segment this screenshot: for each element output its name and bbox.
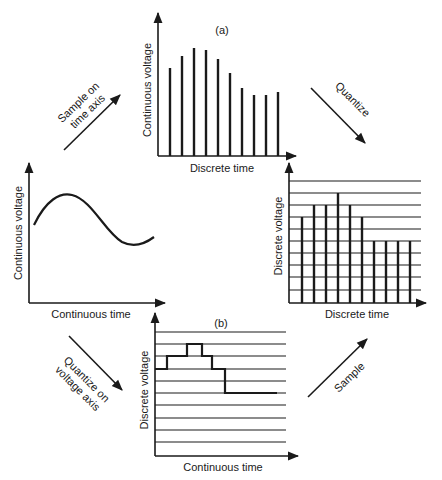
y-axis-label: Discrete voltage xyxy=(272,197,284,276)
analog-waveform xyxy=(34,194,154,244)
sampling-quantization-diagram: (a) Continuous voltage Discrete time Con… xyxy=(0,0,442,480)
y-axis-label: Continuous voltage xyxy=(12,186,24,280)
panel-tag-a: (a) xyxy=(215,24,228,36)
quantized-sample-bars xyxy=(302,193,410,303)
arrow-label: Sample xyxy=(332,360,367,395)
sample-bars xyxy=(170,48,278,156)
x-axis-label: Continuous time xyxy=(51,308,131,320)
arrow-quantize: Quantize xyxy=(311,79,373,143)
panel-quantized-sampled: Discrete voltage Discrete time xyxy=(272,163,426,320)
y-axis-label: Discrete voltage xyxy=(138,351,150,430)
arrow-sample-on-time-axis: Sample on time axis xyxy=(55,80,120,150)
arrow-sample: Sample xyxy=(308,339,367,397)
panel-tag-b: (b) xyxy=(214,317,227,329)
quantization-levels xyxy=(155,332,286,442)
x-axis-label: Discrete time xyxy=(325,308,389,320)
quantization-levels xyxy=(289,181,421,290)
panel-continuous-signal: Continuous voltage Continuous time xyxy=(12,163,165,320)
x-axis-label: Continuous time xyxy=(183,461,263,473)
y-axis-label: Continuous voltage xyxy=(141,43,153,137)
x-axis-label: Discrete time xyxy=(190,162,254,174)
arrow-quantize-on-voltage-axis: Quantize on voltage axis xyxy=(53,336,122,413)
arrow-label: Quantize xyxy=(333,79,373,119)
panel-a-sampled: (a) Continuous voltage Discrete time xyxy=(141,13,296,174)
panel-b-quantized: (b) Discrete voltage Continuous time xyxy=(138,313,298,473)
